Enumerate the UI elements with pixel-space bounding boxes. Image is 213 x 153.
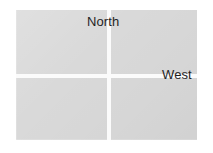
quadrant-top-right[interactable] <box>111 10 197 74</box>
quadrant-bottom-right[interactable] <box>111 78 197 140</box>
label-north: North <box>87 15 119 29</box>
quadrant-direction-map: North West <box>0 0 213 153</box>
label-west: West <box>162 68 192 82</box>
quadrant-bottom-left[interactable] <box>16 78 107 140</box>
